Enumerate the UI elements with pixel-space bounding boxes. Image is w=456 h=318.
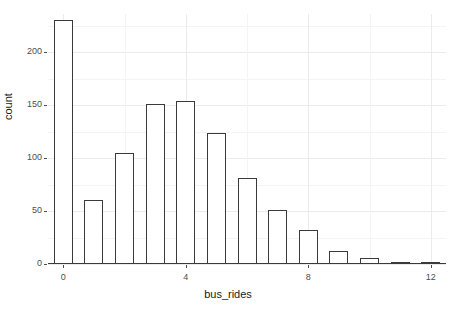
gridline-y-major: [48, 264, 446, 265]
x-tick-mark: [308, 265, 309, 268]
plot-panel: [48, 14, 446, 264]
y-axis-title: count: [2, 93, 14, 120]
bar: [268, 210, 287, 264]
bar: [299, 230, 318, 264]
y-tick-mark: [44, 158, 47, 159]
x-tick-mark: [186, 265, 187, 268]
bar: [176, 101, 195, 264]
y-tick-mark: [44, 52, 47, 53]
y-tick-mark: [44, 211, 47, 212]
bar: [54, 20, 73, 264]
bar: [238, 178, 257, 264]
bar: [207, 133, 226, 264]
y-tick-label: 150: [18, 99, 42, 109]
y-tick-label: 0: [18, 258, 42, 268]
y-tick-mark: [44, 264, 47, 265]
bar: [84, 200, 103, 264]
gridline-x-major: [431, 14, 432, 264]
x-tick-label: 0: [61, 272, 66, 282]
x-tick-label: 4: [183, 272, 188, 282]
bar: [146, 104, 165, 264]
y-tick-mark: [44, 105, 47, 106]
y-tick-label: 200: [18, 46, 42, 56]
y-tick-label: 50: [18, 205, 42, 215]
x-axis-line: [48, 263, 446, 264]
x-tick-mark: [63, 265, 64, 268]
chart-figure: 050100150200 04812 bus_rides count: [0, 0, 456, 318]
x-tick-label: 8: [306, 272, 311, 282]
gridline-x-minor: [370, 14, 371, 264]
y-tick-label: 100: [18, 152, 42, 162]
x-tick-label: 12: [426, 272, 436, 282]
x-tick-mark: [431, 265, 432, 268]
bar: [115, 153, 134, 264]
x-axis-title: bus_rides: [0, 288, 456, 300]
gridline-x-major: [308, 14, 309, 264]
